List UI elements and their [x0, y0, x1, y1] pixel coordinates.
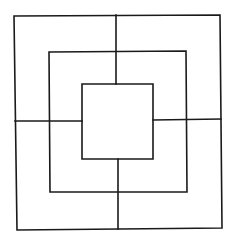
- inner-square: [82, 84, 153, 159]
- right-connector-line: [153, 119, 221, 120]
- connectors: [15, 15, 221, 229]
- morris-board: [0, 0, 233, 241]
